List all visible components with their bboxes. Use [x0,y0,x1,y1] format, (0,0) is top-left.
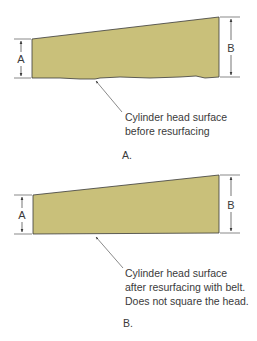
caption-panel-b: Cylinder head surface after resurfacing … [125,266,249,308]
dimension-label-b: B [227,42,234,54]
panel-a-figure: A B [14,17,240,112]
caption-line: after resurfacing with belt. [125,280,249,294]
caption-panel-a: Cylinder head surface before resurfacing [125,110,227,138]
panel-label-a: A. [122,149,132,161]
leader-arrow-b [96,237,123,268]
caption-line: Does not square the head. [125,294,249,308]
panel-b-figure: A B [14,175,240,268]
dimension-label-a: A [18,209,26,221]
caption-line: before resurfacing [125,124,227,138]
dimension-label-b: B [227,199,234,211]
leader-arrow-a [96,81,122,112]
cylinder-head-section-b [33,175,219,234]
dimension-label-a: A [17,53,25,65]
caption-line: Cylinder head surface [125,266,249,280]
caption-line: Cylinder head surface [125,110,227,124]
panel-label-b: B. [123,317,133,329]
cylinder-head-section-a [32,17,219,79]
